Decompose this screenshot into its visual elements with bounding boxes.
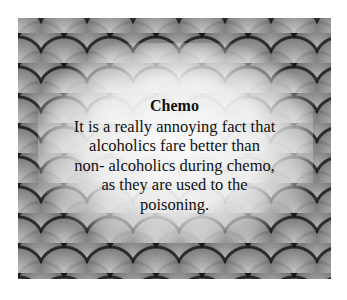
quote-line: It is a really annoying fact that <box>18 117 331 137</box>
quote-line: as they are used to the <box>18 175 331 195</box>
quote-line: non- alcoholics during chemo, <box>18 156 331 176</box>
quote-text-block: Chemo It is a really annoying fact that … <box>18 96 331 214</box>
quote-line: poisoning. <box>18 195 331 215</box>
quote-line: alcoholics fare better than <box>18 136 331 156</box>
quote-title: Chemo <box>18 96 331 116</box>
